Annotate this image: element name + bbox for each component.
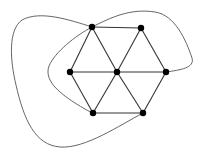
node-bottom-left	[90, 110, 96, 116]
curved-edge-inner	[48, 11, 192, 113]
node-right	[163, 69, 169, 75]
node-left	[67, 69, 73, 75]
graph-svg	[0, 0, 203, 154]
node-top-left	[89, 24, 95, 30]
graph-diagram	[0, 0, 203, 154]
node-center	[114, 69, 120, 75]
node-top-right	[138, 25, 144, 31]
node-bottom-right	[140, 110, 146, 116]
graph-nodes	[67, 24, 169, 116]
